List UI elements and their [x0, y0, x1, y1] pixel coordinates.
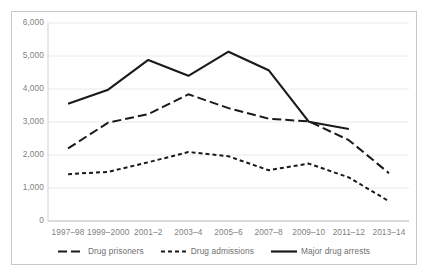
x-axis-tick-label: 1999–2000 [87, 227, 129, 237]
chart-frame: 01,0002,0003,0004,0005,0006,000 1997–981… [11, 11, 417, 265]
x-axis-tick-label: 2013–14 [372, 227, 405, 237]
x-axis-tick-label: 2003–4 [174, 227, 202, 237]
legend-item-drug-admissions[interactable]: Drug admissions [161, 246, 254, 256]
chart-plot-area: 01,0002,0003,0004,0005,0006,000 1997–981… [12, 12, 416, 264]
legend-swatch-dashed-short [161, 248, 187, 255]
x-axis-tick-label: 2005–6 [214, 227, 242, 237]
legend-label: Drug prisoners [88, 246, 144, 256]
x-axis-tick-label: 1997–98 [52, 227, 85, 237]
legend-label: Drug admissions [191, 246, 254, 256]
chart-legend: Drug prisonersDrug admissionsMajor drug … [12, 246, 416, 256]
legend-swatch-dashed-long [58, 248, 84, 255]
legend-label: Major drug arrests [301, 246, 370, 256]
x-axis-tick-label: 2007–8 [254, 227, 282, 237]
x-axis-tick-label: 2001–2 [134, 227, 162, 237]
x-axis-tick-label: 2011–12 [333, 227, 365, 237]
legend-item-major-drug-arrests[interactable]: Major drug arrests [271, 246, 370, 256]
x-axis-tick-label: 2009–10 [292, 227, 325, 237]
x-axis-tick-labels: 1997–981999–20002001–22003–42005–62007–8… [12, 12, 416, 264]
legend-item-drug-prisoners[interactable]: Drug prisoners [58, 246, 144, 256]
legend-swatch-solid [271, 248, 297, 255]
